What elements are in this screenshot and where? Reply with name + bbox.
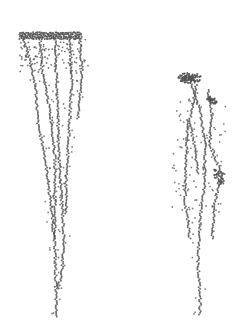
- stipple-figure: [0, 0, 245, 334]
- right-structure: [172, 72, 227, 315]
- left-structure: [18, 31, 89, 317]
